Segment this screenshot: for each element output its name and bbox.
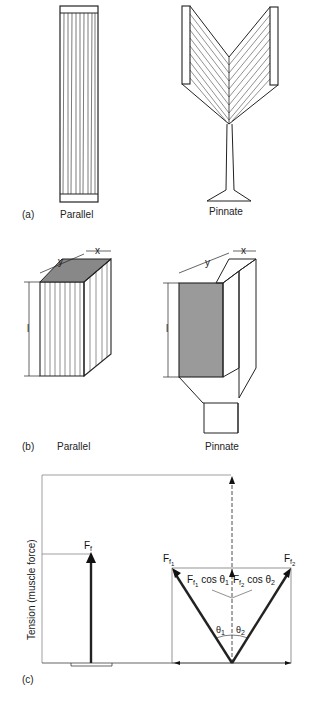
y-axis-label: Tension (muscle force) <box>26 539 37 640</box>
panel-a-pinnate-muscle <box>182 6 278 201</box>
dimension-l-label-pinnate: l <box>166 323 168 334</box>
parallel-force-label: Ff <box>84 540 92 552</box>
panel-b-pinnate-label: Pinnate <box>205 441 239 452</box>
dimension-x-label-parallel: x <box>95 245 100 256</box>
panel-a-tag: (a) <box>22 209 34 220</box>
component-2-label: Ff2 cos θ2 <box>233 574 275 588</box>
panel-a-pinnate-label: Pinnate <box>209 206 243 217</box>
pinnate-force-1-label: Ff1 <box>163 553 174 567</box>
panel-a-parallel-label: Parallel <box>60 209 93 220</box>
angle-1-label: θ1 <box>216 625 225 636</box>
muscle-architecture-figure <box>0 0 312 707</box>
panel-b-parallel-label: Parallel <box>57 441 90 452</box>
dimension-x-label-pinnate: x <box>241 245 246 256</box>
dimension-y-label-pinnate: y <box>205 257 210 268</box>
panel-c-force-diagram <box>42 475 291 666</box>
panel-a-parallel-muscle <box>60 6 98 202</box>
panel-b-tag: (b) <box>22 441 34 452</box>
pinnate-force-2-label: Ff2 <box>284 553 295 567</box>
panel-b-pinnate-block <box>163 251 256 433</box>
component-1-label: Ff1 cos θ1 <box>187 574 229 588</box>
dimension-l-label-parallel: l <box>27 323 29 334</box>
panel-b-parallel-block <box>24 251 111 376</box>
angle-2-label: θ2 <box>236 625 245 636</box>
panel-c-tag: (c) <box>22 674 34 685</box>
dimension-y-label-parallel: y <box>58 256 63 267</box>
